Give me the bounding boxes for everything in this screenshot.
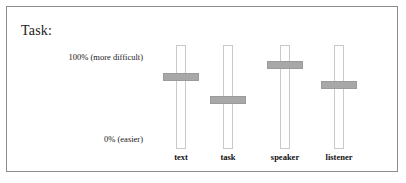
screenshot-canvas: Task: 100% (more difficult) 0% (easier) … <box>0 0 406 183</box>
task-difficulty-panel: Task: 100% (more difficult) 0% (easier) … <box>6 6 398 172</box>
slider-listener[interactable]: listener <box>304 7 374 173</box>
slider-thumb-task[interactable] <box>210 96 246 104</box>
slider-thumb-listener[interactable] <box>321 81 357 89</box>
slider-label-listener: listener <box>304 152 374 162</box>
slider-track-listener[interactable] <box>334 45 344 149</box>
slider-group: texttaskspeakerlistener <box>7 7 399 173</box>
slider-track-text[interactable] <box>176 45 186 149</box>
slider-thumb-speaker[interactable] <box>267 61 303 69</box>
